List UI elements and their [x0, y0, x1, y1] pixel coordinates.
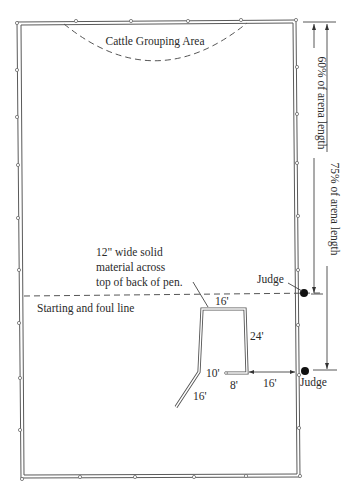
foul-line-label: Starting and foul line	[37, 302, 134, 315]
judge-distance-label: 16'	[263, 377, 277, 389]
pct60-label: 60% of arena length	[315, 57, 328, 150]
pen-side-length-label: 24'	[250, 330, 264, 342]
wing-label: 16'	[193, 390, 207, 402]
pen-note-line1: 12" wide solid	[96, 246, 163, 258]
pen-note-line2: material across	[96, 261, 166, 273]
pen-note-line3: top of back of pen.	[96, 276, 183, 289]
judge-top-label: Judge	[257, 273, 284, 286]
pct75-label: 75% of arena length	[328, 163, 341, 256]
judge-bottom-marker	[301, 367, 309, 375]
grouping-area-label: Cattle Grouping Area	[105, 35, 204, 48]
pen-back-width-label: 16'	[215, 295, 229, 307]
gate-stub-label: 8'	[230, 379, 238, 391]
pen-note: 12" wide solid material across top of ba…	[96, 246, 208, 307]
judge-bottom-label: Judge	[300, 376, 327, 389]
judge-distance-arrow	[249, 370, 295, 374]
gate-opening-label: 10'	[206, 367, 220, 379]
arena-diagram: Cattle Grouping Area Starting and foul l…	[0, 0, 351, 492]
foul-line	[24, 293, 320, 296]
pen	[176, 309, 247, 407]
